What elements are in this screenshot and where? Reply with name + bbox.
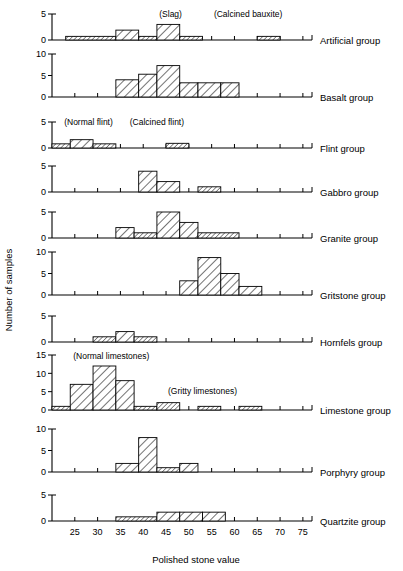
x-tick-label: 35 — [115, 527, 125, 537]
panel-limestone-group: 051015(Normal limestones)(Gritty limesto… — [36, 350, 391, 415]
histogram-bar — [157, 468, 180, 472]
x-tick-label: 60 — [229, 527, 239, 537]
y-tick-label: 10 — [36, 424, 46, 434]
histogram-bar — [66, 36, 116, 40]
histogram-bar — [70, 140, 93, 148]
histogram-bar — [157, 403, 180, 410]
panel-annotation: (Calcined flint) — [130, 117, 184, 127]
panels-layer: 05(Slag)(Calcined bauxite)Artificial gro… — [36, 9, 391, 526]
histogram-bar — [70, 384, 93, 410]
histogram-bar — [52, 406, 70, 410]
x-tick-label: 30 — [93, 527, 103, 537]
group-label: Artificial group — [320, 35, 380, 46]
group-label: Quartzite group — [320, 516, 385, 527]
histogram-bar — [134, 406, 157, 410]
x-tick-label: 40 — [138, 527, 148, 537]
y-tick-label: 0 — [41, 143, 46, 153]
histogram-bar — [180, 222, 198, 238]
histogram-bar — [157, 212, 180, 238]
y-tick-label: 0 — [41, 516, 46, 526]
histogram-bar — [180, 512, 203, 521]
panel-annotation: (Normal flint) — [64, 117, 113, 127]
y-tick-label: 0 — [41, 467, 46, 477]
x-tick-label: 75 — [298, 527, 308, 537]
histogram-bar — [203, 512, 226, 521]
x-tick-label: 50 — [184, 527, 194, 537]
histogram-bar — [134, 233, 157, 238]
panel-gritstone-group: 0510Gritstone group — [36, 247, 386, 300]
y-tick-label: 5 — [41, 490, 46, 500]
x-tick-label: 25 — [70, 527, 80, 537]
x-axis-title: Polished stone value — [152, 554, 240, 565]
panel-granite-group: 05Granite group — [41, 207, 378, 243]
histogram-bar — [116, 332, 134, 342]
y-tick-label: 5 — [41, 71, 46, 81]
y-tick-label: 5 — [41, 161, 46, 171]
y-tick-label: 5 — [41, 207, 46, 217]
histogram-bar — [116, 228, 134, 238]
y-tick-label: 0 — [41, 405, 46, 415]
histogram-bar — [116, 381, 134, 410]
histogram-bar — [116, 30, 139, 40]
group-label: Hornfels group — [320, 337, 382, 348]
y-tick-label: 10 — [36, 247, 46, 257]
histogram-bar — [180, 83, 198, 97]
group-label: Basalt group — [320, 92, 373, 103]
histogram-bar — [157, 512, 180, 521]
histogram-bar — [221, 274, 239, 296]
histogram-bar — [52, 144, 70, 148]
histogram-bar — [116, 80, 139, 97]
panel-quartzite-group: 05Quartzite group — [41, 490, 386, 526]
group-label: Porphyry group — [320, 467, 385, 478]
panel-annotation: (Gritty limestones) — [168, 386, 237, 396]
y-tick-label: 5 — [41, 9, 46, 19]
y-tick-label: 0 — [41, 290, 46, 300]
panel-gabbro-group: 05Gabbro group — [41, 161, 379, 197]
y-tick-label: 5 — [41, 446, 46, 456]
histogram-bar — [166, 143, 189, 148]
y-tick-label: 0 — [41, 92, 46, 102]
y-tick-label: 15 — [36, 350, 46, 360]
histogram-bar — [198, 233, 239, 238]
panel-basalt-group: 0510Basalt group — [36, 49, 373, 102]
y-tick-label: 5 — [41, 269, 46, 279]
panel-porphyry-group: 0510Porphyry group — [36, 424, 385, 477]
y-tick-label: 0 — [41, 233, 46, 243]
histogram-bar — [93, 337, 116, 342]
histogram-bar — [257, 36, 280, 40]
x-tick-label: 55 — [207, 527, 217, 537]
y-tick-label: 5 — [41, 387, 46, 397]
histogram-bar — [198, 406, 221, 410]
histogram-bar — [157, 182, 180, 192]
x-tick-label: 65 — [252, 527, 262, 537]
y-tick-label: 0 — [41, 337, 46, 347]
histogram-bar — [139, 438, 157, 472]
x-axis-layer: 2530354045505560657075 — [70, 527, 308, 537]
x-tick-label: 45 — [161, 527, 171, 537]
histogram-bar — [139, 74, 157, 97]
group-label: Gabbro group — [320, 187, 379, 198]
group-label: Granite group — [320, 233, 378, 244]
panel-annotation: (Slag) — [159, 9, 182, 19]
histogram-bar — [198, 83, 221, 97]
panel-hornfels-group: 05Hornfels group — [41, 311, 382, 347]
histogram-bar — [180, 281, 198, 295]
histogram-bar — [239, 406, 262, 410]
histogram-svg: 05(Slag)(Calcined bauxite)Artificial gro… — [0, 0, 403, 571]
histogram-bar — [221, 83, 239, 97]
y-tick-label: 0 — [41, 35, 46, 45]
group-label: Gritstone group — [320, 290, 385, 301]
histogram-bar — [157, 24, 180, 40]
histogram-bar — [93, 366, 116, 410]
group-label: Flint group — [320, 143, 365, 154]
polished-stone-value-histogram-figure: 05(Slag)(Calcined bauxite)Artificial gro… — [0, 0, 403, 571]
histogram-bar — [239, 286, 262, 295]
histogram-bar — [116, 517, 157, 521]
histogram-bar — [180, 463, 198, 472]
group-label: Limestone group — [320, 405, 391, 416]
panel-annotation: (Normal limestones) — [73, 351, 149, 361]
histogram-bar — [116, 463, 139, 472]
histogram-bar — [198, 187, 221, 192]
panel-flint-group: 05(Normal flint)(Calcined flint)Flint gr… — [41, 117, 365, 153]
histogram-bar — [198, 258, 221, 295]
